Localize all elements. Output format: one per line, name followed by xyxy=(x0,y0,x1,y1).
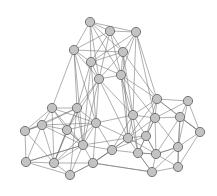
graph-node[interactable] xyxy=(118,47,127,56)
graph-edge xyxy=(96,123,128,138)
graph-node[interactable] xyxy=(21,157,30,166)
graph-node[interactable] xyxy=(20,126,29,135)
graph-node[interactable] xyxy=(183,96,192,105)
graph-node[interactable] xyxy=(147,167,156,176)
graph-node[interactable] xyxy=(116,70,125,79)
graph-node[interactable] xyxy=(173,162,182,171)
graph-node[interactable] xyxy=(94,74,103,83)
graph-node[interactable] xyxy=(85,17,94,26)
graph-node[interactable] xyxy=(47,103,56,112)
graph-node[interactable] xyxy=(107,145,116,154)
graph-edge xyxy=(52,108,54,163)
graph-node[interactable] xyxy=(128,110,137,119)
graph-edge xyxy=(54,145,83,163)
graph-node[interactable] xyxy=(62,125,71,134)
graph-node[interactable] xyxy=(105,26,114,35)
graph-node[interactable] xyxy=(195,127,204,136)
graph-edge xyxy=(52,50,74,108)
graph-node[interactable] xyxy=(123,133,132,142)
graph-node[interactable] xyxy=(69,45,78,54)
graph-edge xyxy=(155,118,156,154)
graph-edge xyxy=(121,75,157,99)
graph-node[interactable] xyxy=(72,103,81,112)
graph-node[interactable] xyxy=(152,94,161,103)
graph-edge xyxy=(74,50,123,52)
graph-node[interactable] xyxy=(175,112,184,121)
graph-node[interactable] xyxy=(173,142,182,151)
graph-edge xyxy=(96,115,133,123)
graph-figure xyxy=(0,0,217,196)
graph-node[interactable] xyxy=(49,158,58,167)
graph-node[interactable] xyxy=(86,57,95,66)
graph-node[interactable] xyxy=(65,170,74,179)
graph-canvas xyxy=(0,0,217,196)
graph-node[interactable] xyxy=(151,149,160,158)
graph-edge xyxy=(112,115,133,150)
graph-edge xyxy=(133,32,136,115)
graph-edge xyxy=(121,75,128,138)
graph-node[interactable] xyxy=(133,148,142,157)
graph-node[interactable] xyxy=(91,118,100,127)
graph-edge xyxy=(136,32,157,99)
graph-node[interactable] xyxy=(141,131,150,140)
graph-edge xyxy=(99,31,110,79)
graph-edge xyxy=(123,52,157,99)
graph-node[interactable] xyxy=(78,140,87,149)
graph-edge xyxy=(155,118,178,147)
graph-edge xyxy=(93,163,152,172)
graph-edge xyxy=(26,162,70,175)
graph-edge xyxy=(42,125,54,163)
graph-node[interactable] xyxy=(131,27,140,36)
graph-node[interactable] xyxy=(150,113,159,122)
graph-node[interactable] xyxy=(37,120,46,129)
graph-node[interactable] xyxy=(88,158,97,167)
graph-edge xyxy=(54,130,67,163)
